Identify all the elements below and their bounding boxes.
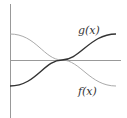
g-label: g(x) bbox=[78, 25, 100, 36]
function-plot: g(x) f(x) bbox=[0, 0, 127, 118]
plot-area bbox=[0, 0, 127, 118]
f-label: f(x) bbox=[78, 86, 97, 97]
